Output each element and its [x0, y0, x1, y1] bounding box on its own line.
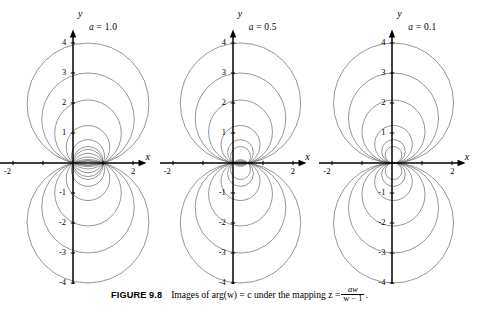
- y-axis-arrowhead: [229, 30, 235, 38]
- parameter-equals-2: =: [256, 22, 262, 32]
- x-tick-label-2: 2: [450, 166, 454, 176]
- parameter-value-3: 0.1: [424, 22, 436, 32]
- y-tick-label-3: 3: [381, 67, 385, 77]
- x-tick-label-neg2: -2: [4, 166, 11, 176]
- figure-caption: FIGURE 9.8Images of arg(w) = c under the…: [0, 286, 479, 305]
- caption-text: Images of arg(w) = c under the mapping z…: [171, 289, 340, 300]
- y-tick-label-neg3: -3: [59, 247, 66, 257]
- x-tick-label-2: 2: [291, 166, 295, 176]
- y-tick-label-4: 4: [62, 37, 66, 47]
- circle-lower-2: [42, 161, 135, 254]
- x-tick-label-neg2: -2: [323, 166, 330, 176]
- y-tick-label-4: 4: [222, 37, 226, 47]
- figure-9-8: a = 1.0 y x -224321-1-2-3-4 a = 0.5 y x …: [0, 0, 479, 316]
- y-tick-label-2: 2: [222, 97, 226, 107]
- circle-lower-3: [362, 163, 425, 226]
- y-tick-label-neg1: -1: [59, 187, 66, 197]
- parameter-name-1: a: [89, 22, 94, 32]
- plot-svg-1: [0, 0, 160, 284]
- circle-lower-5: [382, 163, 406, 187]
- y-tick-label-neg3: -3: [378, 247, 385, 257]
- y-axis-label-1: y: [78, 8, 82, 19]
- circle-lower-4: [221, 162, 260, 201]
- parameter-equals-1: =: [97, 22, 103, 32]
- axes-group: [0, 30, 147, 285]
- parameter-label-3: a = 0.1: [408, 22, 436, 32]
- parameter-equals-3: =: [416, 22, 422, 32]
- y-axis-label-2: y: [238, 8, 242, 19]
- y-tick-label-neg3: -3: [219, 247, 226, 257]
- y-tick-label-2: 2: [381, 97, 385, 107]
- circle-upper-5: [71, 140, 104, 173]
- y-tick-label-neg2: -2: [59, 217, 66, 227]
- circle-lower-2: [349, 163, 439, 253]
- y-tick-label-1: 1: [62, 127, 66, 137]
- y-axis-arrowhead: [389, 30, 395, 38]
- circle-lower-5: [71, 153, 104, 186]
- plot-svg-2: [160, 0, 320, 284]
- circle-lower-1: [180, 163, 300, 283]
- circle-upper-3: [208, 100, 272, 164]
- axes-group: [319, 30, 466, 285]
- figure-number: FIGURE 9.8: [111, 290, 162, 300]
- y-tick-label-4: 4: [381, 37, 385, 47]
- x-tick-label-neg2: -2: [164, 166, 171, 176]
- y-tick-label-3: 3: [62, 67, 66, 77]
- parameter-name-3: a: [408, 22, 413, 32]
- plot-panel-3: a = 0.1 y x -224321-1-2-3-4: [319, 0, 479, 284]
- y-tick-label-1: 1: [222, 127, 226, 137]
- axes-group: [160, 30, 307, 285]
- parameter-label-1: a = 1.0: [89, 22, 117, 32]
- plot-panel-1: a = 1.0 y x -224321-1-2-3-4: [0, 0, 160, 284]
- circle-upper-2: [349, 73, 439, 163]
- y-axis-label-3: y: [397, 8, 401, 19]
- y-tick-label-3: 3: [222, 67, 226, 77]
- y-tick-label-neg2: -2: [219, 217, 226, 227]
- x-axis-label-3: x: [465, 151, 469, 162]
- circle-lower-2: [195, 162, 286, 253]
- caption-period: .: [365, 289, 367, 300]
- plot-panel-2: a = 0.5 y x -224321-1-2-3-4: [160, 0, 320, 284]
- parameter-value-2: 0.5: [264, 22, 276, 32]
- parameter-label-2: a = 0.5: [249, 22, 277, 32]
- circle-upper-5: [382, 140, 406, 164]
- y-tick-label-neg2: -2: [378, 217, 385, 227]
- fraction-denominator: w − 1: [341, 294, 364, 304]
- circle-upper-1: [180, 43, 300, 163]
- y-tick-label-1: 1: [381, 127, 385, 137]
- parameter-name-2: a: [249, 22, 254, 32]
- circle-upper-2: [195, 73, 286, 164]
- panel-container: a = 1.0 y x -224321-1-2-3-4 a = 0.5 y x …: [0, 0, 479, 284]
- x-tick-label-2: 2: [131, 166, 135, 176]
- circle-upper-4: [221, 126, 260, 165]
- parameter-value-1: 1.0: [105, 22, 117, 32]
- circle-lower-6: [385, 163, 402, 180]
- circle-upper-2: [42, 73, 135, 166]
- y-tick-label-neg1: -1: [219, 187, 226, 197]
- y-tick-label-neg1: -1: [378, 187, 385, 197]
- fraction-numerator: aw: [341, 286, 364, 295]
- y-tick-label-2: 2: [62, 97, 66, 107]
- circle-upper-6: [385, 147, 402, 164]
- y-axis-arrowhead: [70, 30, 76, 38]
- x-axis-label-2: x: [305, 151, 309, 162]
- circle-upper-3: [362, 100, 425, 163]
- plot-svg-3: [319, 0, 479, 284]
- caption-fraction: aww − 1: [341, 286, 364, 305]
- x-axis-label-1: x: [146, 151, 150, 162]
